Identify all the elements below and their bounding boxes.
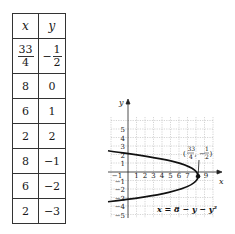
x-tick: 7: [185, 172, 189, 180]
vertex-y-num: 1: [205, 145, 209, 152]
x-tick: 9: [204, 172, 208, 180]
x-axis-label: x: [219, 177, 224, 186]
x-tick: 6: [177, 172, 182, 180]
vertex-label: ( 33 4 , − 1 2 ): [183, 145, 213, 160]
paren-open: (: [183, 150, 186, 158]
equation-label: x = 8 − y − y²: [156, 204, 217, 214]
vertex-y-den: 2: [205, 153, 209, 160]
parabola-graph: y x −1 1 2 3 4 5 6 7 9 5 4 3 2 1 −1 −2 −…: [0, 0, 235, 234]
vertex-leader-line: [198, 160, 199, 176]
y-tick: −2: [115, 186, 125, 194]
vertex-x-den: 4: [189, 153, 193, 160]
y-axis-label: y: [118, 98, 124, 107]
paren-close: ): [210, 150, 213, 158]
y-tick: 5: [121, 126, 125, 134]
x-tick: 1: [134, 172, 138, 180]
y-tick: −4: [115, 203, 126, 211]
x-tick-labels: −1 1 2 3 4 5 6 7 9: [112, 172, 208, 180]
y-tick: 4: [121, 135, 126, 143]
x-tick: 2: [143, 172, 147, 180]
x-tick: 5: [168, 172, 172, 180]
y-tick: −1: [115, 178, 125, 186]
x-tick: 4: [160, 172, 165, 180]
y-tick: −5: [115, 212, 125, 220]
comma: ,: [195, 150, 197, 158]
x-tick: 3: [151, 172, 155, 180]
y-tick: 1: [121, 160, 125, 168]
y-tick: 3: [121, 143, 125, 151]
grid: [111, 117, 213, 218]
